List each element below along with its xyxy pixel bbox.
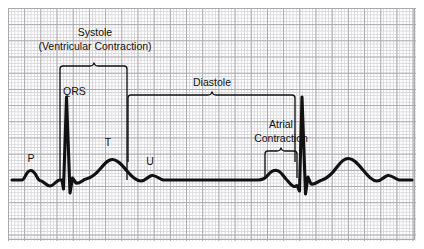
u-wave-label: U: [146, 155, 154, 167]
atrial-contraction-label-line1: Atrial: [269, 118, 293, 130]
qrs-wave-label: QRS: [63, 85, 86, 97]
t-wave-label: T: [105, 136, 112, 148]
systole-label-line2: (Ventricular Contraction): [38, 40, 151, 52]
p-wave-label: P: [27, 152, 34, 164]
atrial-contraction-label-line2: Contraction: [254, 132, 308, 144]
annotation-systole: Systole (Ventricular Contraction): [38, 26, 151, 180]
ecg-trace-path: [12, 97, 412, 194]
ecg-overlay: Systole (Ventricular Contraction) Diasto…: [0, 0, 424, 249]
ecg-figure: Systole (Ventricular Contraction) Diasto…: [0, 0, 424, 249]
systole-label-line1: Systole: [78, 26, 113, 38]
diastole-label: Diastole: [193, 76, 231, 88]
wave-labels-group: P QRS T U: [27, 85, 153, 167]
ecg-trace-group: [12, 97, 412, 194]
